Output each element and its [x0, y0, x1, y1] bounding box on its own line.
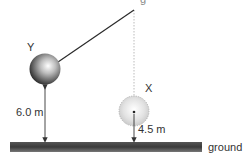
pivot-label-partial: g	[140, 0, 146, 5]
ball-x-center-dot	[133, 111, 136, 114]
pendulum-diagram	[0, 0, 250, 162]
ball-y-label: Y	[27, 42, 34, 53]
height-label-x: 4.5 m	[138, 124, 166, 135]
ball-y	[30, 54, 61, 85]
ground-label: ground	[208, 142, 242, 153]
height-label-y: 6.0 m	[16, 107, 44, 118]
pendulum-string	[58, 10, 134, 62]
ball-x-label: X	[145, 83, 152, 94]
ground-bar	[10, 142, 202, 152]
